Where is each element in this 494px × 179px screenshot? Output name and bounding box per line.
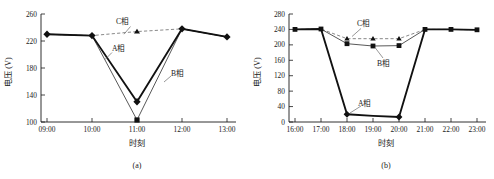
x-axis-title-b: 时刻 (378, 138, 394, 148)
x-ticklabel-a-2: 11:00 (129, 125, 146, 134)
figure-container: 电压 (V) 100 140 180 220 260 09:00 10:00 1… (0, 0, 494, 179)
series-marker-b-b-0 (345, 41, 350, 46)
series-label-c-b: C相 (357, 18, 370, 28)
series-marker-b-b-2 (397, 43, 402, 48)
y-ticklabel-a-0: 100 (26, 118, 37, 127)
x-ticklabel-b-7: 23:00 (469, 125, 486, 134)
panel-caption-b: (b) (381, 161, 391, 170)
y-ticklabel-a-4: 260 (26, 10, 37, 19)
y-ticklabel-b-0: 0 (281, 118, 285, 127)
x-ticklabel-b-2: 18:00 (339, 125, 356, 134)
series-marker-b-shared-7 (475, 27, 480, 32)
x-ticklabel-b-1: 17:00 (313, 125, 330, 134)
y-ticklabel-a-1: 140 (26, 91, 37, 100)
series-marker-a-b-2 (344, 111, 351, 118)
x-ticklabel-b-3: 19:00 (365, 125, 382, 134)
series-marker-c-b-2 (396, 36, 401, 41)
x-ticklabel-b-5: 21:00 (417, 125, 434, 134)
x-ticklabel-a-1: 10:00 (84, 125, 101, 134)
series-marker-a-b-4 (396, 114, 403, 121)
x-axis-title-a: 时刻 (129, 138, 145, 148)
x-ticklabel-a-3: 12:00 (174, 125, 191, 134)
y-ticklabel-b-3: 120 (274, 71, 285, 80)
y-ticklabel-b-5: 200 (274, 40, 285, 49)
series-label-c-a: C相 (116, 16, 129, 26)
y-ticklabel-a-2: 180 (26, 64, 37, 73)
series-marker-b-shared-5 (423, 27, 428, 32)
series-label-b-b: B相 (377, 58, 390, 68)
series-marker-a-a-0 (43, 31, 50, 38)
series-marker-b-shared-0 (293, 27, 298, 32)
series-line-b-a (47, 29, 227, 120)
y-axis-title-a: 电压 (V) (3, 57, 13, 87)
series-marker-a-a-4 (223, 33, 230, 40)
chart-b-svg: 电压 (V) 0 40 80 120 160 200 240 280 (244, 0, 494, 179)
y-ticklabel-b-1: 40 (278, 102, 286, 111)
series-marker-b-shared-6 (449, 27, 454, 32)
x-ticklabel-a-0: 09:00 (39, 125, 56, 134)
series-line-a-b (295, 29, 477, 117)
panel-caption-a: (a) (133, 161, 142, 170)
y-ticklabel-b-7: 280 (274, 10, 285, 19)
series-marker-c-b-1 (370, 36, 375, 41)
y-ticklabel-b-4: 160 (274, 56, 285, 65)
y-ticklabel-b-2: 80 (278, 87, 286, 96)
series-line-a-a (47, 29, 227, 102)
series-label-b-a: B相 (171, 68, 184, 78)
x-ticklabel-b-4: 20:00 (391, 125, 408, 134)
chart-panel-a: 电压 (V) 100 140 180 220 260 09:00 10:00 1… (0, 0, 244, 179)
series-label-a-a: A相 (112, 43, 125, 53)
x-ticklabel-b-6: 22:00 (443, 125, 460, 134)
leader-b-a (164, 76, 171, 82)
leader-c-a (124, 27, 131, 35)
leader-c-b (352, 29, 361, 37)
chart-panel-b: 电压 (V) 0 40 80 120 160 200 240 280 (244, 0, 494, 179)
chart-a-svg: 电压 (V) 100 140 180 220 260 09:00 10:00 1… (0, 0, 244, 179)
x-ticklabel-a-4: 13:00 (219, 125, 236, 134)
y-axis-title-b: 电压 (V) (252, 57, 262, 87)
y-ticklabel-a-3: 220 (26, 37, 37, 46)
y-ticklabel-b-6: 240 (274, 25, 285, 34)
series-marker-b-b-1 (371, 44, 376, 49)
x-ticklabel-b-0: 16:00 (287, 125, 304, 134)
series-label-a-b: A相 (358, 98, 371, 108)
leader-b-b (375, 48, 383, 59)
series-marker-b-shared-1 (319, 27, 324, 32)
series-marker-b-a (134, 117, 139, 122)
